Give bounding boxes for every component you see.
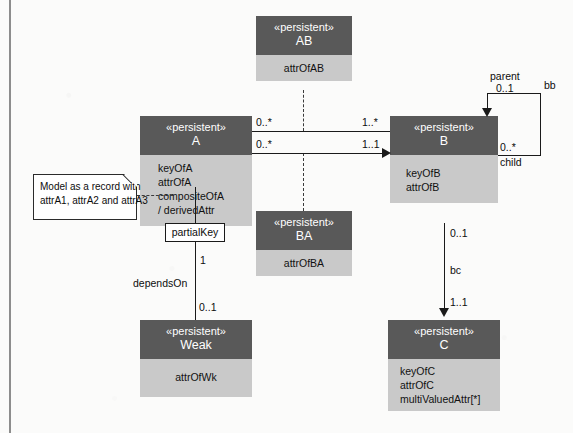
class-name-label: Weak — [142, 338, 250, 353]
multiplicity-ba-right: 1..1 — [362, 139, 380, 151]
stereotype-label: «persistent» — [258, 216, 350, 229]
multiplicity-ba-left: 0..* — [256, 139, 272, 151]
page-edge-line — [9, 0, 11, 433]
multiplicity-dependson-bottom: 0..1 — [199, 302, 217, 314]
partial-key-label-box: partialKey — [165, 223, 225, 242]
note-line-1: Model as a record with — [40, 180, 130, 194]
class-header-a: «persistent» A — [140, 116, 252, 155]
class-header-c: «persistent» C — [388, 320, 500, 359]
class-attributes-ab: attrOfAB — [256, 55, 352, 81]
attribute-item: compositeOfA — [158, 190, 252, 204]
class-header-b: «persistent» B — [390, 116, 498, 155]
class-box-c[interactable]: «persistent» C keyOfC attrOfC multiValue… — [388, 320, 500, 411]
note-anchor-line — [137, 195, 173, 196]
attribute-item: attrOfWk — [140, 371, 252, 385]
class-header-weak: «persistent» Weak — [140, 320, 252, 359]
association-line-ab — [252, 131, 390, 132]
class-name-label: BA — [258, 229, 350, 244]
class-attributes-a: keyOfA attrOfA compositeOfA / derivedAtt… — [140, 155, 252, 226]
class-attributes-ba: attrOfBA — [256, 250, 352, 276]
class-box-ba[interactable]: «persistent» BA attrOfBA — [256, 211, 352, 276]
multiplicity-bc-bottom: 1..1 — [450, 297, 468, 309]
stereotype-label: «persistent» — [390, 325, 498, 338]
association-name-bc: bc — [450, 265, 461, 277]
attribute-item: attrOfAB — [256, 62, 352, 76]
association-name-dependson: dependsOn — [133, 278, 187, 290]
stereotype-label: «persistent» — [258, 21, 350, 34]
uml-diagram-canvas: «persistent» AB attrOfAB «persistent» A … — [0, 0, 573, 433]
class-box-b[interactable]: «persistent» B keyOfB attrOfB — [390, 116, 498, 203]
class-box-weak[interactable]: «persistent» Weak attrOfWk — [140, 320, 252, 397]
association-class-link-ba — [303, 153, 304, 211]
multiplicity-parent: 0..1 — [496, 83, 514, 95]
note-line-2: attrA1, attrA2 and attrA3 — [40, 194, 130, 208]
association-line-ba — [252, 153, 384, 154]
attribute-item: attrOfBA — [256, 257, 352, 271]
class-box-ab[interactable]: «persistent» AB attrOfAB — [256, 16, 352, 81]
multiplicity-ab-right: 1..* — [362, 117, 378, 129]
class-attributes-c: keyOfC attrOfC multiValuedAttr[*] — [388, 359, 500, 411]
multiplicity-child: 0..* — [500, 142, 516, 154]
stereotype-label: «persistent» — [142, 325, 250, 338]
self-assoc-name: bb — [544, 80, 556, 92]
self-assoc-segment-right — [540, 93, 541, 155]
class-name-label: C — [390, 338, 498, 353]
note-box[interactable]: Model as a record with attrA1, attrA2 an… — [33, 174, 137, 220]
class-name-label: B — [392, 134, 496, 149]
role-label-child: child — [500, 157, 522, 169]
association-arrowhead-ba — [382, 148, 391, 158]
attribute-item: / derivedAttr — [158, 204, 252, 218]
class-name-label: AB — [258, 34, 350, 49]
self-assoc-arrowhead — [482, 108, 492, 117]
multiplicity-dependson-top: 1 — [200, 255, 206, 267]
class-attributes-weak: attrOfWk — [140, 359, 252, 397]
attribute-item: keyOfC — [400, 365, 500, 379]
association-line-bc — [444, 223, 445, 311]
class-box-a[interactable]: «persistent» A keyOfA attrOfA compositeO… — [140, 116, 252, 226]
attribute-item: attrOfA — [158, 176, 252, 190]
association-line-dependson — [195, 187, 196, 320]
association-arrowhead-bc — [439, 308, 449, 317]
class-attributes-b: keyOfB attrOfB — [390, 155, 498, 203]
class-header-ab: «persistent» AB — [256, 16, 352, 55]
attribute-item: attrOfC — [400, 379, 500, 393]
role-label-parent: parent — [490, 71, 520, 83]
attribute-item: attrOfB — [406, 181, 498, 195]
association-class-link-ab — [303, 90, 304, 131]
multiplicity-ab-left: 0..* — [256, 117, 272, 129]
stereotype-label: «persistent» — [142, 121, 250, 134]
class-header-ba: «persistent» BA — [256, 211, 352, 250]
multiplicity-bc-top: 0..1 — [450, 228, 468, 240]
attribute-item: keyOfB — [406, 167, 498, 181]
attribute-item: keyOfA — [158, 162, 252, 176]
note-fold-edge — [119, 174, 137, 192]
attribute-item: multiValuedAttr[*] — [400, 393, 500, 407]
class-name-label: A — [142, 134, 250, 149]
stereotype-label: «persistent» — [392, 121, 496, 134]
